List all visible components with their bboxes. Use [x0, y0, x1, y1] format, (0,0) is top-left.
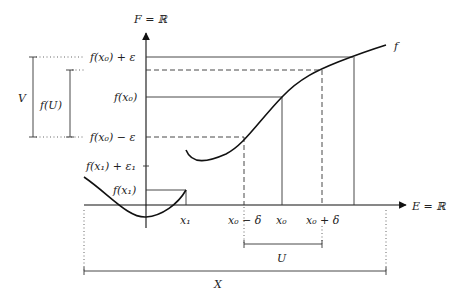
function-label: f: [393, 40, 400, 53]
label-fU: f(U): [39, 99, 62, 112]
label-V: V: [18, 92, 27, 105]
continuity-diagram: F = ℝ E = ℝ f(x₀) + ε f(x₀) f(x₀) − ε f(…: [0, 0, 461, 297]
label-x0-plus-delta: x₀ + δ: [306, 214, 340, 227]
label-X: X: [213, 278, 223, 291]
curve-right-branch: [186, 45, 386, 161]
label-fx0-plus-eps: f(x₀) + ε: [89, 51, 135, 64]
x-axis-label: E = ℝ: [411, 200, 446, 213]
label-fx0-minus-eps: f(x₀) − ε: [89, 131, 135, 144]
curve-left-branch: [84, 177, 186, 217]
label-x1: x₁: [180, 214, 191, 227]
label-fx0: f(x₀): [113, 91, 137, 104]
label-fx1: f(x₁): [112, 184, 136, 197]
label-x0-minus-delta: x₀ − δ: [228, 214, 262, 227]
label-x0: x₀: [276, 214, 287, 227]
label-U: U: [277, 252, 287, 265]
y-axis-label: F = ℝ: [133, 13, 168, 26]
label-fx1-plus-eps1: f(x₁) + ε₁: [85, 160, 136, 173]
